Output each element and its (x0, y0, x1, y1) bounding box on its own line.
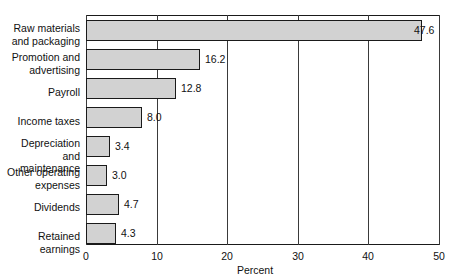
xtick-label-0: 0 (71, 249, 101, 263)
bar-value-label: 16.2 (205, 52, 225, 66)
bar-income-taxes[interactable] (86, 107, 142, 128)
bar-depreciation[interactable] (86, 136, 110, 157)
bar-payroll[interactable] (86, 78, 176, 99)
bar-value-label: 4.3 (121, 226, 136, 240)
bar-value-label: 47.6 (414, 23, 434, 37)
xtick-label-50: 50 (424, 249, 452, 263)
bar-promotion[interactable] (86, 49, 200, 70)
xtick-label-10: 10 (142, 249, 172, 263)
xtick-label-40: 40 (353, 249, 383, 263)
bar-row: 4.3 (0, 223, 452, 244)
bars-layer: 47.6 16.2 12.8 8.0 3.4 3.0 4.7 4 (0, 0, 452, 278)
x-axis-title: Percent (205, 264, 305, 277)
bar-row: 4.7 (0, 194, 452, 215)
bar-dividends[interactable] (86, 194, 119, 215)
bar-row: 16.2 (0, 49, 452, 70)
bar-raw-materials[interactable] (86, 20, 422, 41)
bar-other-operating[interactable] (86, 165, 107, 186)
bar-chart: Raw materials and packaging Promotion an… (0, 0, 452, 278)
bar-row: 47.6 (0, 20, 452, 41)
xtick-label-30: 30 (283, 249, 313, 263)
bar-value-label: 3.4 (115, 139, 130, 153)
bar-value-label: 12.8 (181, 81, 201, 95)
bar-row: 3.4 (0, 136, 452, 157)
bar-retained-earnings[interactable] (86, 223, 116, 244)
xtick-label-20: 20 (212, 249, 242, 263)
bar-row: 12.8 (0, 78, 452, 99)
bar-value-label: 4.7 (124, 197, 139, 211)
bar-value-label: 3.0 (112, 168, 127, 182)
bar-row: 8.0 (0, 107, 452, 128)
bar-value-label: 8.0 (147, 110, 162, 124)
bar-row: 3.0 (0, 165, 452, 186)
